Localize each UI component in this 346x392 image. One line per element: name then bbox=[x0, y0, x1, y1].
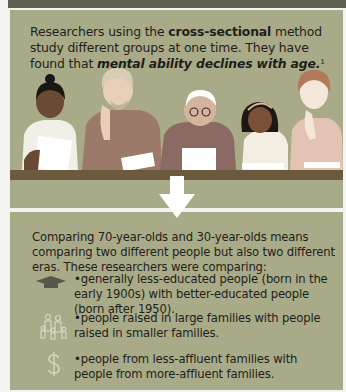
person-girl-left bbox=[22, 74, 78, 172]
person-girl-headband bbox=[241, 102, 288, 170]
intro-finding: mental ability declines with age. bbox=[97, 56, 320, 71]
comparison-item-affluence: •people from less-affluent families with… bbox=[74, 352, 336, 382]
comparison-item-family-size: •people raised in large families with pe… bbox=[74, 311, 336, 341]
person-elderly-glasses bbox=[160, 90, 236, 170]
footnote-marker[interactable]: 1 bbox=[320, 58, 324, 66]
dollar-sign-icon bbox=[46, 352, 62, 376]
family-icon bbox=[40, 312, 68, 340]
intro-bold-term: cross-sectional bbox=[168, 24, 271, 39]
graduation-cap-icon bbox=[36, 276, 66, 290]
comparison-panel: Comparing 70-year-olds and 30-year-olds … bbox=[10, 212, 343, 390]
top-bar bbox=[8, 0, 346, 8]
down-arrow-icon bbox=[159, 176, 195, 218]
person-man-beard bbox=[82, 68, 162, 172]
comparison-lead: Comparing 70-year-olds and 30-year-olds … bbox=[32, 230, 337, 275]
person-woman-right bbox=[290, 70, 343, 170]
intro-part1: Researchers using the bbox=[30, 24, 168, 39]
intro-text: Researchers using the cross-sectional me… bbox=[30, 24, 335, 72]
